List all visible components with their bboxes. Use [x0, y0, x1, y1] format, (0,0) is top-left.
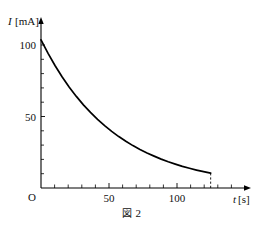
- figure-container: 100 50 50 100 O I [mA] t [s] 図 2: [0, 0, 263, 231]
- current-vs-time-chart: 100 50 50 100 O I [mA] t [s]: [0, 0, 263, 231]
- y-tick-label-50: 50: [25, 111, 37, 123]
- y-axis-title-variable: I: [7, 15, 13, 27]
- y-axis-title: I [mA]: [7, 15, 39, 27]
- x-axis-title-unit: [s]: [238, 193, 250, 205]
- x-tick-label-50: 50: [104, 192, 116, 204]
- x-axis: [41, 185, 251, 190]
- figure-caption-symbol: 図: [122, 208, 133, 219]
- y-axis-arrowhead: [38, 17, 43, 24]
- decay-curve: [41, 40, 211, 173]
- x-tick-label-100: 100: [169, 192, 186, 204]
- y-axis-title-unit: [mA]: [15, 15, 39, 27]
- x-axis-arrowhead: [244, 185, 251, 190]
- x-axis-title: t [s]: [233, 193, 250, 205]
- y-tick-label-100: 100: [20, 39, 37, 51]
- figure-caption: 図 2: [0, 205, 263, 220]
- figure-caption-number: 2: [135, 207, 141, 219]
- origin-label: O: [28, 191, 36, 203]
- x-axis-ticks: [55, 183, 232, 188]
- y-axis-ticks: [41, 45, 45, 174]
- x-axis-title-variable: t: [233, 193, 237, 205]
